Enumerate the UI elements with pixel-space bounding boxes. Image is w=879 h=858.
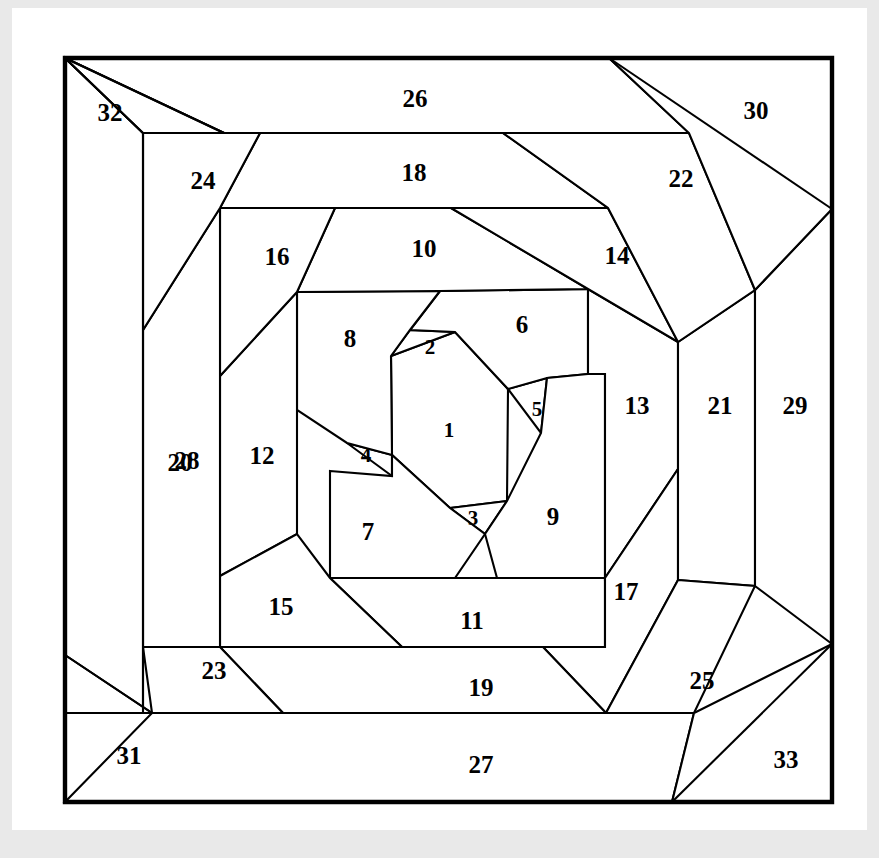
piece-label-15: 15 (269, 593, 294, 620)
piece-label-33: 33 (774, 746, 799, 773)
dissection-piece-19[interactable] (220, 647, 606, 713)
piece-label-13: 13 (625, 392, 650, 419)
piece-label-1: 1 (444, 418, 455, 442)
piece-label-31: 31 (117, 742, 142, 769)
piece-label-28: 28 (175, 447, 200, 474)
page-canvas: 1234567891011121314151617181920212223242… (0, 0, 879, 858)
piece-label-12: 12 (250, 442, 275, 469)
piece-label-8: 8 (344, 325, 357, 352)
piece-label-30: 30 (744, 97, 769, 124)
piece-label-3: 3 (468, 506, 479, 530)
piece-label-26: 26 (403, 85, 428, 112)
piece-label-16: 16 (265, 243, 290, 270)
squared-square-figure: 1234567891011121314151617181920212223242… (0, 0, 879, 858)
piece-label-27: 27 (469, 751, 494, 778)
piece-label-2: 2 (425, 335, 436, 359)
piece-label-11: 11 (460, 607, 484, 634)
piece-label-10: 10 (412, 235, 437, 262)
piece-label-24: 24 (191, 167, 217, 194)
piece-label-7: 7 (362, 518, 375, 545)
piece-label-6: 6 (516, 311, 529, 338)
piece-label-22: 22 (669, 165, 694, 192)
piece-label-4: 4 (361, 443, 372, 467)
piece-label-5: 5 (532, 397, 543, 421)
dissection-piece-28[interactable] (65, 58, 143, 713)
piece-label-23: 23 (202, 657, 227, 684)
piece-label-21: 21 (708, 392, 733, 419)
piece-label-17: 17 (614, 578, 639, 605)
piece-label-14: 14 (605, 242, 631, 269)
piece-label-19: 19 (469, 674, 494, 701)
piece-label-18: 18 (402, 159, 427, 186)
dissection-piece-27[interactable] (65, 713, 694, 802)
piece-label-25: 25 (690, 667, 715, 694)
piece-label-9: 9 (547, 503, 560, 530)
dissection-svg: 1234567891011121314151617181920212223242… (0, 0, 879, 858)
piece-label-29: 29 (783, 392, 808, 419)
piece-label-32: 32 (98, 99, 123, 126)
